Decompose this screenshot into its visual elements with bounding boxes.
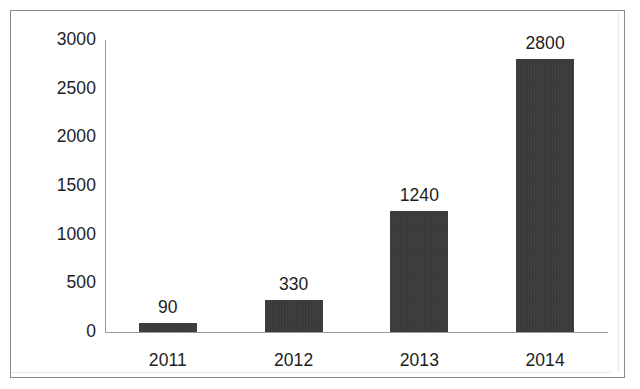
category-label-2011: 2011 [118, 352, 218, 370]
bar-value-label-2013: 1240 [369, 187, 469, 205]
bar-2012 [265, 300, 323, 332]
bar-value-label-2011: 90 [118, 299, 218, 317]
bar-2014 [516, 59, 574, 332]
bar-2011 [139, 323, 197, 332]
bar-value-label-2012: 330 [244, 276, 344, 294]
bar-chart-figure: 3000 2500 2000 1500 1000 500 0 902011330… [0, 0, 640, 389]
y-tick-label: 1000 [34, 226, 96, 244]
category-label-2014: 2014 [495, 352, 595, 370]
bar-value-label-2014: 2800 [495, 35, 595, 53]
y-tick-label: 2500 [34, 80, 96, 98]
y-axis-line [105, 40, 106, 332]
y-tick-label: 3000 [34, 31, 96, 49]
bar-2013 [390, 211, 448, 332]
y-tick-label: 2000 [34, 129, 96, 147]
y-tick-label: 500 [34, 275, 96, 293]
y-tick-label: 0 [34, 323, 96, 341]
plot-area: 3000 2500 2000 1500 1000 500 0 902011330… [0, 0, 640, 389]
y-tick-label: 1500 [34, 177, 96, 195]
category-label-2012: 2012 [244, 352, 344, 370]
category-label-2013: 2013 [369, 352, 469, 370]
